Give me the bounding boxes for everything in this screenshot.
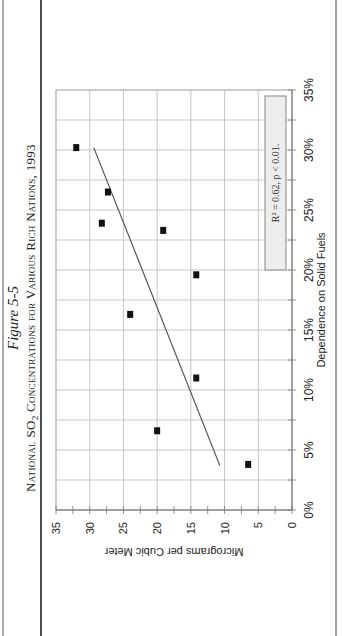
x-tick-label-group: 20% bbox=[302, 258, 316, 282]
y-axis-title-group: Micrograms per Cubic Meter bbox=[104, 546, 243, 558]
data-point-marker bbox=[160, 227, 166, 234]
y-tick-label-group: 30 bbox=[84, 522, 96, 534]
x-tick-label-group: 0% bbox=[302, 501, 316, 519]
x-axis-title-group: Dependence on Solid Fuels bbox=[315, 232, 327, 368]
y-tick-label-group: 35 bbox=[50, 522, 62, 534]
data-point-marker bbox=[245, 461, 251, 468]
x-tick-label-group: 15% bbox=[302, 318, 316, 342]
data-point-marker bbox=[154, 427, 160, 434]
x-tick-label-group: 10% bbox=[302, 378, 316, 402]
x-tick-label: 35% bbox=[302, 78, 316, 102]
y-tick-label-group: 20 bbox=[151, 522, 163, 534]
annotation-text-group: R² = 0.62, p < 0.01. bbox=[270, 144, 281, 222]
plot-area: R² = 0.62, p < 0.01. bbox=[56, 90, 292, 510]
figure-label: Figure 5-5 bbox=[5, 285, 21, 351]
y-tick-label-group: 25 bbox=[117, 522, 129, 534]
y-tick-label: 25 bbox=[117, 522, 129, 534]
data-point-marker bbox=[193, 375, 199, 382]
data-point-marker bbox=[73, 144, 79, 151]
x-tick-label-group: 30% bbox=[302, 138, 316, 162]
y-tick-label-group: 10 bbox=[219, 522, 231, 534]
x-tick-label-group: 5% bbox=[302, 441, 316, 459]
x-tick-label: 0% bbox=[302, 501, 316, 519]
y-tick-label: 10 bbox=[219, 522, 231, 534]
y-tick-label: 0 bbox=[286, 522, 298, 528]
x-tick-label: 20% bbox=[302, 258, 316, 282]
x-axis-title: Dependence on Solid Fuels bbox=[315, 232, 327, 368]
y-tick-label-group: 5 bbox=[252, 522, 264, 528]
x-tick-label: 25% bbox=[302, 198, 316, 222]
annotation-text: R² = 0.62, p < 0.01. bbox=[270, 144, 281, 222]
y-tick-label: 20 bbox=[151, 522, 163, 534]
y-tick-label: 35 bbox=[50, 522, 62, 534]
x-tick-label: 15% bbox=[302, 318, 316, 342]
figure-canvas: Figure 5-5 National SO2 Concentrations f… bbox=[0, 0, 342, 636]
y-tick-label-group: 0 bbox=[286, 522, 298, 528]
y-axis-title: Micrograms per Cubic Meter bbox=[104, 546, 243, 558]
figure-title: National SO2 Concentrations for Various … bbox=[23, 144, 40, 492]
data-point-marker bbox=[127, 311, 133, 318]
y-tick-label: 5 bbox=[252, 522, 264, 528]
y-tick-label: 30 bbox=[84, 522, 96, 534]
x-tick-label: 10% bbox=[302, 378, 316, 402]
x-tick-label-group: 35% bbox=[302, 78, 316, 102]
x-tick-label: 30% bbox=[302, 138, 316, 162]
figure-title-block: Figure 5-5 National SO2 Concentrations f… bbox=[5, 144, 40, 492]
y-tick-label: 15 bbox=[185, 522, 197, 534]
data-point-marker bbox=[193, 271, 199, 278]
x-axis-ticks: 0%5%10%15%20%25%30%35% bbox=[288, 78, 316, 519]
x-tick-label: 5% bbox=[302, 441, 316, 459]
y-axis-ticks: 05101520253035 bbox=[50, 506, 298, 534]
data-point-marker bbox=[105, 189, 111, 196]
x-tick-label-group: 25% bbox=[302, 198, 316, 222]
y-tick-label-group: 15 bbox=[185, 522, 197, 534]
data-point-marker bbox=[99, 220, 105, 227]
